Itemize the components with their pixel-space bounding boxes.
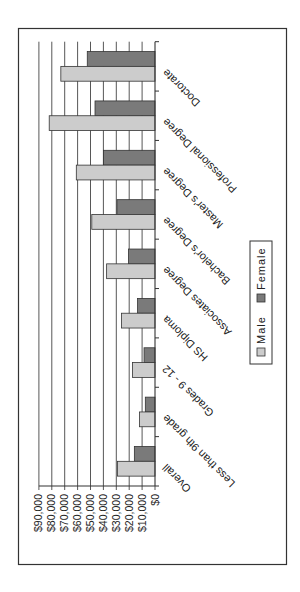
bar-female (145, 397, 155, 412)
value-axis-labels: $0$10,000$20,000$30,000$40,000$50,000$60… (32, 494, 160, 532)
value-tick-label: $60,000 (71, 494, 83, 532)
bar-male (140, 412, 155, 427)
bar-male (132, 363, 155, 378)
legend-label-male: Male (255, 316, 267, 344)
legend: MaleFemale (250, 241, 272, 364)
value-tick-label: $10,000 (136, 494, 148, 532)
bar-female (129, 249, 155, 264)
bar-female (87, 52, 155, 67)
value-tick-label: $30,000 (110, 494, 122, 532)
value-tick-label: $40,000 (97, 494, 109, 532)
bar-male (76, 165, 155, 180)
value-tick-label: $20,000 (123, 494, 135, 532)
value-tick-label: $80,000 (45, 494, 57, 532)
bar-female (144, 348, 155, 363)
value-tick-label: $50,000 (84, 494, 96, 532)
legend-swatch-male-icon (257, 348, 265, 356)
bar-male (49, 116, 155, 131)
bar-male (107, 264, 155, 279)
bar-female (117, 200, 155, 215)
chart-container: $0$10,000$20,000$30,000$40,000$50,000$60… (0, 0, 300, 592)
bar-female (138, 298, 155, 313)
value-tick-label: $70,000 (58, 494, 70, 532)
legend-label-female: Female (255, 247, 267, 290)
value-tick-label: $0 (149, 494, 161, 506)
bar-chart: $0$10,000$20,000$30,000$40,000$50,000$60… (0, 0, 300, 592)
bar-female (95, 101, 155, 116)
bar-female (103, 150, 155, 165)
legend-swatch-female-icon (257, 294, 265, 302)
bar-male (121, 313, 155, 328)
value-tick-label: $90,000 (32, 494, 44, 532)
bar-male (118, 461, 155, 476)
bar-male (92, 214, 155, 229)
bar-female (134, 447, 155, 462)
bar-male (61, 66, 155, 81)
